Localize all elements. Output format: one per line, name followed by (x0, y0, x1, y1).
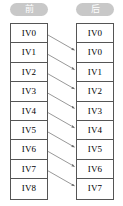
cell-before-8: IV8 (11, 179, 47, 198)
arrow-5-to-6 (48, 132, 75, 147)
diagram-canvas: 前 后 IV0IV1IV2IV3IV4IV5IV6IV7IV8 IV0IV0IV… (0, 0, 123, 206)
column-after: IV0IV0IV1IV2IV3IV4IV5IV6IV7 (76, 23, 114, 200)
arrow-4-to-5 (48, 113, 75, 128)
cell-before-0: IV0 (11, 24, 47, 43)
arrow-7-to-8 (48, 171, 75, 186)
column-header-after: 后 (76, 3, 114, 16)
arrow-1-to-2 (48, 54, 75, 69)
cell-after-8: IV7 (77, 179, 113, 198)
cell-before-4: IV4 (11, 102, 47, 121)
arrow-6-to-7 (48, 151, 75, 166)
arrow-3-to-4 (48, 93, 75, 108)
arrow-2-to-3 (48, 74, 75, 89)
cell-before-3: IV3 (11, 82, 47, 101)
column-header-before: 前 (10, 3, 48, 16)
cell-before-1: IV1 (11, 43, 47, 62)
cell-after-2: IV1 (77, 63, 113, 82)
cell-before-2: IV2 (11, 63, 47, 82)
cell-before-7: IV7 (11, 160, 47, 179)
arrow-0-to-1 (48, 35, 75, 50)
cell-after-3: IV2 (77, 82, 113, 101)
cell-before-6: IV6 (11, 140, 47, 159)
cell-after-1: IV0 (77, 43, 113, 62)
column-before: IV0IV1IV2IV3IV4IV5IV6IV7IV8 (10, 23, 48, 200)
cell-after-7: IV6 (77, 160, 113, 179)
cell-after-0: IV0 (77, 24, 113, 43)
cell-after-4: IV3 (77, 102, 113, 121)
cell-before-5: IV5 (11, 121, 47, 140)
cell-after-5: IV4 (77, 121, 113, 140)
cell-after-6: IV5 (77, 140, 113, 159)
